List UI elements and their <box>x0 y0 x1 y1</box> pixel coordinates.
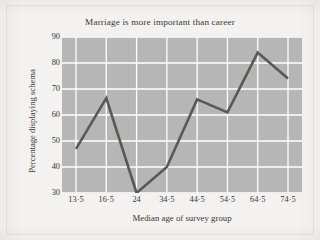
chart-title: Marriage is more important than career <box>0 17 320 27</box>
y-tick-label: 40 <box>34 163 60 171</box>
x-axis-title: Median age of survey group <box>60 213 304 223</box>
y-tick-label: 90 <box>34 33 60 41</box>
x-tick-label: 34·5 <box>150 196 184 204</box>
y-tick-label: 30 <box>34 189 60 197</box>
figure-root: Marriage is more important than career P… <box>0 0 320 240</box>
y-tick-label: 80 <box>34 59 60 67</box>
data-series-line <box>62 37 302 193</box>
y-tick-label: 50 <box>34 137 60 145</box>
x-tick-label: 13·5 <box>59 196 93 204</box>
y-tick-label: 60 <box>34 111 60 119</box>
y-tick-label: 70 <box>34 85 60 93</box>
x-tick-label: 16·5 <box>89 196 123 204</box>
y-axis-tick-labels: 30405060708090 <box>30 37 60 193</box>
x-tick-label: 54·5 <box>210 196 244 204</box>
x-tick-label: 44·5 <box>180 196 214 204</box>
x-axis-tick-labels: 13·516·52434·544·554·564·574·5 <box>62 196 302 210</box>
x-tick-label: 64·5 <box>241 196 275 204</box>
x-tick-label: 24 <box>120 196 154 204</box>
plot-area <box>62 37 302 193</box>
x-tick-label: 74·5 <box>271 196 305 204</box>
